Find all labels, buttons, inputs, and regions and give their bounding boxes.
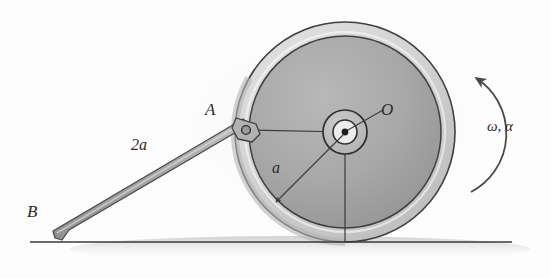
pin-joint-A <box>242 126 251 135</box>
label-point-O: O <box>381 101 393 118</box>
wheel-center-point <box>342 129 349 136</box>
label-point-A: A <box>205 101 215 118</box>
ground-shadow <box>70 236 530 262</box>
wheel <box>235 22 455 242</box>
figure-canvas <box>0 0 551 279</box>
label-point-B: B <box>27 203 37 220</box>
label-angular-motion: ω, α <box>487 119 513 134</box>
label-radius-a: a <box>272 160 280 176</box>
label-rod-length-2a: 2a <box>131 137 147 153</box>
mechanics-figure: A B O a 2a ω, α <box>0 0 551 279</box>
